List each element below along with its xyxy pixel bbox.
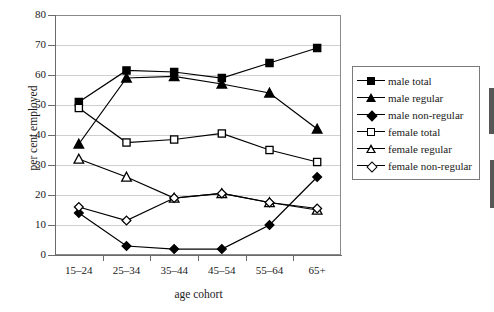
y-axis-tick xyxy=(48,225,55,226)
y-axis-tick xyxy=(48,165,55,166)
square-open-icon xyxy=(357,125,385,139)
gridline xyxy=(56,75,340,76)
y-axis-tick-label: 50 xyxy=(6,99,46,110)
legend-item-label: female regular xyxy=(385,143,452,155)
diamond-open-icon xyxy=(357,159,385,173)
x-axis-title: age cohort xyxy=(55,288,342,300)
y-axis-title: per cent employed xyxy=(27,48,39,208)
legend-item-label: female non-regular xyxy=(385,160,472,172)
y-axis-tick xyxy=(48,255,55,256)
x-axis-tick xyxy=(198,255,199,261)
triangle-filled-icon xyxy=(357,91,385,105)
legend-item-female-regular[interactable]: female regular xyxy=(357,140,475,157)
chart-figure: 0102030405060708015–2425–3435–4445–5455–… xyxy=(0,0,494,312)
triangle-open-icon xyxy=(357,142,385,156)
plot-area xyxy=(55,15,341,255)
gridline xyxy=(56,45,340,46)
legend-item-male-total[interactable]: male total xyxy=(357,72,475,89)
y-axis-tick-label: 0 xyxy=(6,249,46,260)
y-axis-tick-label: 20 xyxy=(6,189,46,200)
y-axis-tick xyxy=(48,105,55,106)
legend-item-label: male regular xyxy=(385,92,443,104)
legend-item-label: male total xyxy=(385,75,432,87)
legend-item-male-regular[interactable]: male regular xyxy=(357,89,475,106)
y-axis-tick-label: 80 xyxy=(6,9,46,20)
y-axis-tick xyxy=(48,15,55,16)
y-axis-tick-label: 30 xyxy=(6,159,46,170)
gridline xyxy=(56,135,340,136)
y-axis-tick-label: 10 xyxy=(6,219,46,230)
legend-item-female-non-regular[interactable]: female non-regular xyxy=(357,157,475,174)
scan-artifact-top xyxy=(489,88,494,134)
y-axis-tick xyxy=(48,135,55,136)
gridline xyxy=(56,165,340,166)
x-axis-tick xyxy=(103,255,104,261)
diamond-filled-icon xyxy=(357,108,385,122)
legend-item-male-non-regular[interactable]: male non-regular xyxy=(357,106,475,123)
y-axis-tick xyxy=(48,45,55,46)
y-axis-tick xyxy=(48,75,55,76)
y-axis-tick-label: 60 xyxy=(6,69,46,80)
x-axis-tick xyxy=(150,255,151,261)
y-axis-tick xyxy=(48,195,55,196)
x-axis-tick xyxy=(293,255,294,261)
y-axis-line xyxy=(55,15,56,256)
legend-item-label: male non-regular xyxy=(385,109,463,121)
gridline xyxy=(56,105,340,106)
square-filled-icon xyxy=(357,74,385,88)
gridline xyxy=(56,195,340,196)
y-axis-tick-label: 40 xyxy=(6,129,46,140)
x-axis-tick-label: 65+ xyxy=(287,264,347,276)
chart-legend: male totalmale regularmale non-regularfe… xyxy=(352,66,480,180)
legend-item-label: female total xyxy=(385,126,440,138)
legend-item-female-total[interactable]: female total xyxy=(357,123,475,140)
y-axis-tick-label: 70 xyxy=(6,39,46,50)
gridline xyxy=(56,225,340,226)
scan-artifact-bottom xyxy=(490,160,494,208)
x-axis-tick xyxy=(246,255,247,261)
